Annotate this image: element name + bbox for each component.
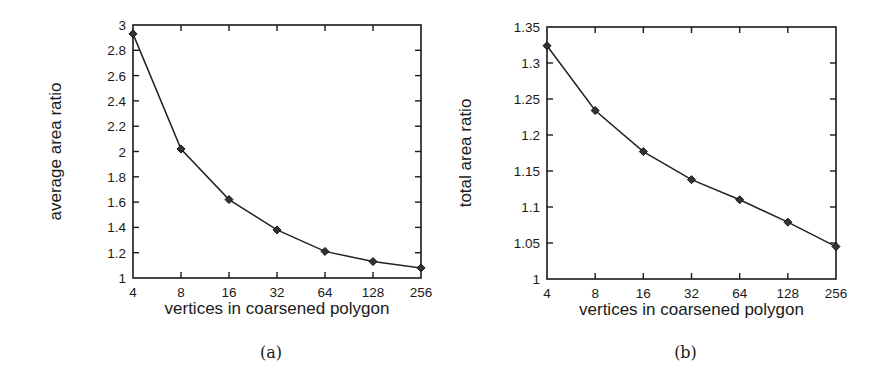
chart-panel-a: 4816326412825611.21.41.61.822.22.42.62.8… bbox=[46, 18, 432, 362]
y-tick-label: 1.05 bbox=[514, 236, 540, 251]
y-axis-label: total area ratio bbox=[456, 99, 475, 208]
y-axis-label: average area ratio bbox=[46, 83, 65, 221]
x-tick-label: 64 bbox=[317, 285, 333, 300]
y-tick-label: 1 bbox=[118, 271, 126, 286]
diamond-marker bbox=[784, 218, 792, 226]
x-tick-label: 8 bbox=[591, 286, 599, 301]
diamond-marker bbox=[832, 243, 840, 251]
y-tick-label: 1.8 bbox=[107, 170, 126, 185]
diamond-marker bbox=[417, 264, 425, 272]
x-tick-label: 256 bbox=[825, 286, 848, 301]
y-tick-label: 3 bbox=[118, 18, 126, 33]
y-tick-label: 1.2 bbox=[107, 246, 126, 261]
x-axis-label: vertices in coarsened polygon bbox=[579, 300, 804, 319]
y-tick-label: 1.25 bbox=[514, 92, 540, 107]
x-tick-label: 16 bbox=[636, 286, 651, 301]
x-tick-label: 4 bbox=[129, 285, 137, 300]
y-tick-label: 1 bbox=[532, 272, 540, 287]
y-tick-label: 1.1 bbox=[521, 200, 540, 215]
y-tick-label: 1.4 bbox=[107, 220, 126, 235]
y-tick-label: 2.6 bbox=[107, 69, 126, 84]
x-tick-label: 64 bbox=[732, 286, 748, 301]
x-tick-label: 128 bbox=[777, 286, 800, 301]
diamond-marker bbox=[736, 196, 744, 204]
x-axis-label: vertices in coarsened polygon bbox=[165, 299, 390, 318]
diamond-marker bbox=[129, 30, 137, 38]
y-tick-label: 2.2 bbox=[107, 119, 126, 134]
figure: 4816326412825611.21.41.61.822.22.42.62.8… bbox=[0, 0, 889, 389]
y-tick-label: 1.6 bbox=[107, 195, 126, 210]
x-tick-label: 4 bbox=[543, 286, 551, 301]
x-tick-label: 8 bbox=[177, 285, 185, 300]
subfigure-caption: (a) bbox=[260, 343, 282, 362]
y-tick-label: 2.4 bbox=[107, 94, 126, 109]
diamond-marker bbox=[369, 258, 377, 266]
diamond-marker bbox=[273, 226, 281, 234]
diamond-marker bbox=[321, 247, 329, 255]
plot-frame bbox=[133, 25, 421, 278]
data-line bbox=[547, 46, 836, 247]
y-tick-label: 1.15 bbox=[514, 164, 540, 179]
y-tick-label: 1.35 bbox=[514, 20, 540, 35]
x-tick-label: 16 bbox=[221, 285, 236, 300]
y-tick-label: 1.2 bbox=[521, 128, 540, 143]
x-tick-label: 128 bbox=[362, 285, 385, 300]
y-tick-label: 1.3 bbox=[521, 56, 540, 71]
x-tick-label: 32 bbox=[269, 285, 284, 300]
chart-panel-b: 4816326412825611.051.11.151.21.251.31.35… bbox=[456, 20, 847, 362]
diamond-marker bbox=[688, 176, 696, 184]
plot-frame bbox=[547, 27, 836, 279]
y-tick-label: 2.8 bbox=[107, 43, 126, 58]
y-tick-label: 2 bbox=[118, 145, 126, 160]
x-tick-label: 256 bbox=[410, 285, 433, 300]
x-tick-label: 32 bbox=[684, 286, 699, 301]
subfigure-caption: (b) bbox=[674, 343, 697, 362]
